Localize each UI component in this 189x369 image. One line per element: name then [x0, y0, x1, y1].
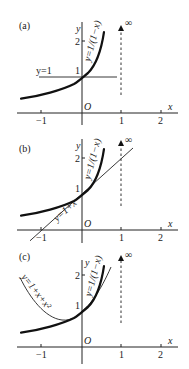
origin-label: O	[84, 101, 91, 112]
curve-label: y=1/(1−x)	[81, 137, 104, 182]
panel-a: (a) −1 1 2 2 1 y x O y=1 y=1/(1−x) ∞	[17, 17, 178, 126]
origin-label: O	[84, 218, 91, 229]
x-tick-label: 2	[158, 349, 163, 360]
x-tick-label: 2	[158, 115, 163, 126]
panel-b: (b) −1 1 2 2 1 y x O y=1+x y=1/(1−x) ∞	[17, 134, 178, 243]
line-label: y=1	[36, 65, 52, 76]
x-tick-label: 1	[119, 115, 124, 126]
panel-c: (c) −1 1 2 2 1 y x O y=1+x+x² y=1/(1−x) …	[17, 249, 178, 364]
panel-label: (b)	[19, 143, 31, 155]
y-tick-label: 1	[75, 65, 80, 76]
y-axis-label: y	[75, 23, 81, 34]
x-axis-label: x	[167, 335, 173, 346]
y-tick-label: 1	[75, 183, 80, 194]
y-tick-label: 1	[75, 300, 80, 311]
x-tick-label: −1	[36, 349, 47, 360]
figure: (a) −1 1 2 2 1 y x O y=1 y=1/(1−x) ∞ (b)	[0, 0, 189, 369]
y-axis-label: y	[75, 140, 81, 151]
infinity-label: ∞	[125, 249, 132, 260]
line-label: y=1+x+x²	[19, 271, 54, 312]
x-tick-label: 1	[119, 349, 124, 360]
infinity-label: ∞	[125, 17, 132, 28]
origin-label: O	[84, 335, 91, 346]
x-tick-label: −1	[36, 115, 47, 126]
y-tick-label: 2	[75, 270, 80, 281]
x-tick-label: 2	[158, 232, 163, 243]
y-tick-label: 2	[75, 153, 80, 164]
infinity-label: ∞	[125, 134, 132, 145]
x-tick-label: 1	[119, 232, 124, 243]
x-axis-label: x	[167, 101, 173, 112]
x-axis-label: x	[167, 218, 173, 229]
panel-label: (a)	[19, 20, 30, 32]
panel-label: (c)	[19, 251, 30, 263]
y-tick-label: 2	[75, 36, 80, 47]
